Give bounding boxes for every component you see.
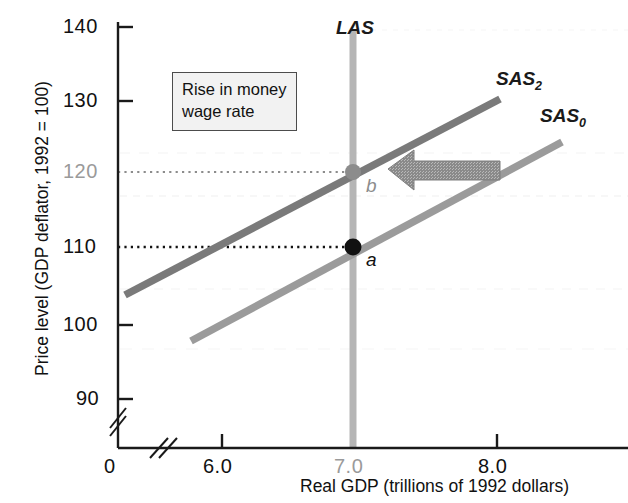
origin-label: 0 xyxy=(104,455,116,478)
y-tick-label-100: 100 xyxy=(63,313,98,336)
point-b-marker xyxy=(345,164,361,180)
sas0-curve-label-sub: 0 xyxy=(579,116,586,130)
y-tick-label-130: 130 xyxy=(63,89,98,112)
y-tick-label-120: 120 xyxy=(63,160,98,183)
x-tick-label-8: 8.0 xyxy=(478,455,507,478)
x-axis-title: Real GDP (trillions of 1992 dollars) xyxy=(300,476,569,497)
x-tick-label-6: 6.0 xyxy=(203,455,232,478)
sas2-curve-label: SAS2 xyxy=(496,68,542,93)
las-curve-label: LAS xyxy=(336,17,374,39)
point-a-marker xyxy=(345,239,362,256)
callout-box: Rise in money wage rate xyxy=(172,72,297,131)
point-a-label: a xyxy=(366,249,377,271)
y-tick-label-110: 110 xyxy=(63,235,96,258)
sas2-curve-label-sub: 2 xyxy=(535,79,542,93)
y-tick-label-90: 90 xyxy=(76,387,99,410)
y-tick-label-140: 140 xyxy=(63,15,98,38)
sas0-curve-label-base: SAS xyxy=(540,105,579,126)
y-axis-title: Price level (GDP deflator, 1992 = 100) xyxy=(32,19,53,439)
sas0-curve-label: SAS0 xyxy=(540,105,586,130)
x-tick-label-7: 7.0 xyxy=(334,455,363,478)
sas2-curve-label-base: SAS xyxy=(496,68,535,89)
point-b-label: b xyxy=(366,175,377,197)
chart-figure: 140 130 120 110 100 90 6.0 7.0 8.0 0 Pri… xyxy=(0,0,628,503)
